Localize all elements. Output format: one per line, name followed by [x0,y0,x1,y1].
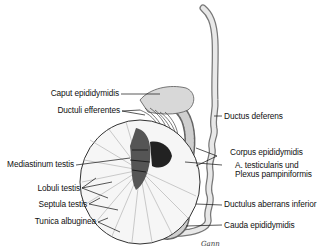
label-plexus-pampiniformis: Plexus pampiniformis [235,170,312,179]
label-corpus-epididymidis: Corpus epididymidis [230,148,303,157]
testis-illustration: Gann [0,0,321,252]
label-septula-testis: Septula testis [0,200,87,209]
label-lobuli-testis: Lobuli testis [0,184,80,193]
artist-signature: Gann [201,240,220,248]
caput-drawing [140,87,194,115]
label-ductuli-efferentes: Ductuli efferentes [0,106,120,115]
label-cauda-epididymidis: Cauda epididymidis [224,221,295,230]
label-tunica-albuginea: Tunica albuginea [0,217,96,226]
label-ductus-deferens: Ductus deferens [224,112,283,121]
label-caput-epididymidis: Caput epididymidis [0,89,119,98]
label-mediastinum-testis: Mediastinum testis [0,160,74,169]
label-ductulus-aberrans-inferior: Ductulus aberrans inferior [224,200,316,209]
